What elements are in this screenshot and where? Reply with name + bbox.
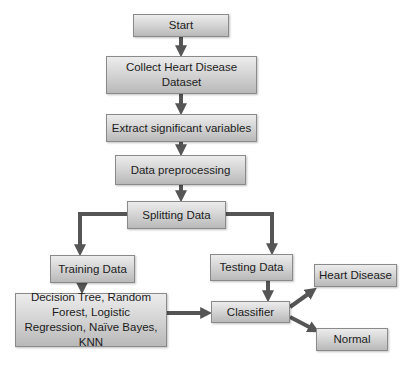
node-label: Splitting Data [142, 208, 210, 223]
node-models: Decision Tree, Random Forest, Logistic R… [15, 293, 167, 347]
node-heart-disease: Heart Disease [314, 264, 397, 287]
node-testing-data: Testing Data [210, 254, 293, 281]
node-label: Heart Disease [319, 268, 392, 283]
node-label: Normal [333, 332, 370, 347]
arrow-classifier-normal [290, 317, 313, 329]
arrow-classifier-heart [290, 292, 311, 307]
node-label: Classifier [227, 305, 274, 320]
node-splitting-data: Splitting Data [127, 201, 226, 229]
node-normal: Normal [316, 328, 388, 351]
node-classifier: Classifier [211, 301, 290, 323]
node-collect-dataset: Collect Heart Disease Dataset [106, 56, 257, 94]
node-label: Testing Data [220, 260, 284, 275]
node-label: Decision Tree, Random Forest, Logistic R… [21, 290, 161, 350]
node-label: Training Data [58, 262, 127, 277]
node-label: Extract significant variables [112, 121, 251, 136]
node-extract-variables: Extract significant variables [106, 114, 257, 142]
arrow-split-testing [226, 214, 272, 248]
node-label: Collect Heart Disease Dataset [122, 60, 242, 90]
node-training-data: Training Data [50, 255, 135, 283]
node-start: Start [133, 14, 229, 37]
node-label: Data preprocessing [131, 163, 231, 178]
node-label: Start [169, 18, 193, 33]
arrow-split-training [80, 214, 127, 249]
node-preprocessing: Data preprocessing [115, 155, 246, 185]
